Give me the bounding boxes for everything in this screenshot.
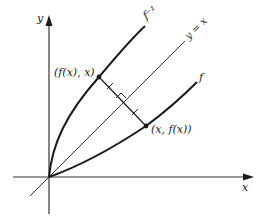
inverse-point-label: (f(x), x): [54, 66, 95, 79]
inverse-function-diagram: y x (f(x), x) (x, f(x)) f⁻¹ y = x f: [0, 0, 267, 224]
identity-line: [30, 41, 185, 196]
function-point-label: (x, f(x)): [151, 123, 192, 136]
inverse-point-dot: [97, 75, 102, 80]
x-axis-label: x: [242, 181, 249, 194]
y-axis-label: y: [36, 12, 44, 25]
f-label: f: [198, 71, 205, 84]
y-axis: [46, 15, 53, 214]
x-axis-arrow-icon: [243, 174, 254, 181]
f-inverse-label: f⁻¹: [139, 4, 159, 23]
identity-line-label: y = x: [182, 15, 209, 42]
f-inverse-curve: [49, 26, 145, 177]
y-axis-arrow-icon: [46, 15, 53, 26]
function-point-dot: [144, 124, 149, 129]
